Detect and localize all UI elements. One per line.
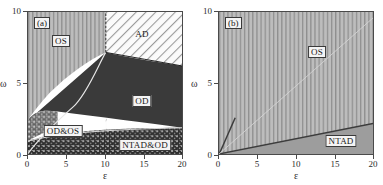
yticklabel-b-0: 0	[202, 150, 212, 160]
ytick-a-1	[23, 83, 27, 84]
ytick-b-1	[214, 83, 218, 84]
xticklabel-a-4: 20	[178, 159, 187, 169]
xticklabel-a-0: 0	[25, 159, 30, 169]
phase-diagram-figure: OS AD OD OD&OS NTAD&OD (a) 0 5 10 15 20 …	[0, 0, 383, 185]
xticklabel-a-1: 5	[64, 159, 69, 169]
yticklabel-b-2: 10	[196, 6, 212, 16]
ytick-b-0	[214, 155, 218, 156]
ytick-a-0	[23, 155, 27, 156]
plot-area-a: OS AD OD OD&OS NTAD&OD (a)	[27, 11, 183, 155]
xaxis-title-b: ε	[294, 170, 298, 181]
yaxis-title-a: ω	[0, 78, 7, 89]
panel-tag-b: (b)	[225, 17, 242, 29]
yticklabel-a-0: 0	[11, 150, 21, 160]
yaxis-title-b: ω	[191, 78, 198, 89]
yticklabel-b-1: 5	[202, 78, 212, 88]
xaxis-title-a: ε	[103, 170, 107, 181]
region-label-od-a: OD	[132, 95, 151, 107]
panel-tag-a: (a)	[34, 17, 50, 29]
region-label-ad-a: AD	[135, 29, 148, 39]
xticklabel-b-1: 5	[255, 159, 260, 169]
region-label-os-a: OS	[52, 35, 70, 47]
xticklabel-b-3: 15	[331, 159, 340, 169]
xticklabel-b-4: 20	[369, 159, 378, 169]
region-label-od-os-a: OD&OS	[44, 125, 83, 137]
region-layer-b	[219, 12, 373, 154]
panel-b: OS NTAD (b) 0 5 10 15 20 0 5 10 ε ω	[191, 0, 383, 185]
region-label-ntad-b: NTAD	[325, 135, 356, 147]
region-label-os-b: OS	[308, 46, 326, 58]
region-label-ntad-od-a: NTAD&OD	[119, 139, 171, 151]
xticklabel-a-2: 10	[101, 159, 110, 169]
xticklabel-b-2: 10	[292, 159, 301, 169]
ytick-b-2	[214, 11, 218, 12]
xticklabel-a-3: 15	[140, 159, 149, 169]
ytick-a-2	[23, 11, 27, 12]
plot-area-b: OS NTAD (b)	[218, 11, 374, 155]
yticklabel-a-1: 5	[11, 78, 21, 88]
panel-a: OS AD OD OD&OS NTAD&OD (a) 0 5 10 15 20 …	[0, 0, 192, 185]
xticklabel-b-0: 0	[216, 159, 221, 169]
yticklabel-a-2: 10	[5, 6, 21, 16]
